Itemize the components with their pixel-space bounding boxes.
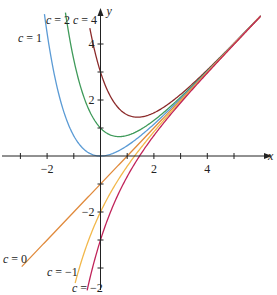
- y-axis-arrow-icon: [98, 8, 104, 16]
- curve-c1: [44, 14, 260, 156]
- curves: [22, 13, 261, 291]
- chart: x y −224−224 c = 1c = 2c = 4c = 0c = −1c…: [0, 0, 277, 295]
- y-axis-label: y: [106, 4, 113, 18]
- curve-label: c = −1: [47, 265, 78, 279]
- curve-label: c = 2: [46, 13, 70, 27]
- curve-label: c = −2: [72, 281, 103, 295]
- x-tick-label: 4: [204, 162, 210, 176]
- x-tick-label: 2: [151, 162, 157, 176]
- curve-label: c = 0: [3, 252, 27, 266]
- curve-labels: c = 1c = 2c = 4c = 0c = −1c = −2: [3, 13, 103, 295]
- y-tick-label: −2: [82, 205, 95, 219]
- curve-label: c = 1: [18, 31, 42, 45]
- x-tick-label: −2: [41, 162, 54, 176]
- y-tick-label: 2: [89, 93, 95, 107]
- axes: x y: [2, 4, 274, 290]
- curve-cneg1: [75, 16, 261, 283]
- ticks: −224−224: [20, 37, 234, 268]
- x-axis-label: x: [267, 149, 274, 163]
- curve-label: c = 4: [73, 13, 97, 27]
- y-tick-label: 4: [89, 37, 95, 51]
